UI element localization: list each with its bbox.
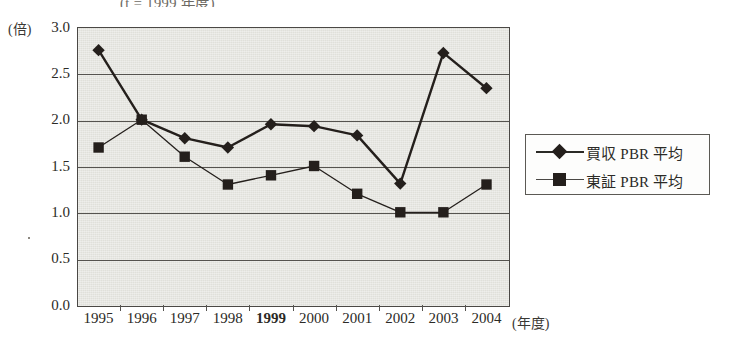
- data-point-square-2003: [438, 207, 448, 217]
- chart-legend: 買収 PBR 平均東証 PBR 平均: [525, 134, 710, 195]
- data-point-diamond-2000: [308, 120, 320, 132]
- scan-artifact-dot: [28, 237, 30, 239]
- x-axis-tick-label-1999: 1999: [248, 309, 294, 329]
- data-point-square-1997: [180, 152, 190, 162]
- legend-marker-square-icon: [553, 173, 566, 186]
- data-point-diamond-1995: [92, 44, 104, 56]
- data-point-square-1999: [266, 170, 276, 180]
- y-axis-tick-label: 1.0: [30, 205, 70, 220]
- series-line-1: [99, 50, 487, 183]
- x-axis-tick-label-1997: 1997: [162, 309, 208, 329]
- chart-title-clipped: (t = 1999 年度): [120, 0, 380, 7]
- legend-label: 買収 PBR 平均: [586, 142, 684, 163]
- y-axis-tick-label: 0.0: [30, 298, 70, 313]
- data-point-square-2001: [352, 189, 362, 199]
- legend-sample-square: [534, 170, 586, 190]
- data-point-square-2000: [309, 161, 319, 171]
- legend-item-1: 買収 PBR 平均: [526, 138, 711, 166]
- data-point-diamond-1997: [179, 132, 191, 144]
- x-axis-tick-label-2003: 2003: [420, 309, 466, 329]
- x-axis-tick-label-2004: 2004: [463, 309, 509, 329]
- data-point-diamond-1999: [265, 118, 277, 130]
- y-axis-tick-label: 0.5: [30, 251, 70, 266]
- x-axis-tick-label-1998: 1998: [205, 309, 251, 329]
- x-axis-tick-label-1996: 1996: [119, 309, 165, 329]
- data-point-square-2004: [481, 179, 491, 189]
- legend-label: 東証 PBR 平均: [586, 170, 684, 191]
- y-axis-tick-label: 2.0: [30, 112, 70, 127]
- y-axis-tick-label: 2.5: [30, 66, 70, 81]
- legend-item-2: 東証 PBR 平均: [526, 166, 711, 194]
- x-axis-unit-label: (年度): [512, 312, 549, 332]
- legend-marker-diamond-icon: [552, 144, 568, 160]
- data-point-square-2002: [395, 207, 405, 217]
- series-overlay: [77, 27, 508, 305]
- series-line-2: [99, 120, 487, 213]
- y-axis-tick-label: 1.5: [30, 159, 70, 174]
- y-axis-tick-label: 3.0: [30, 20, 70, 35]
- data-point-square-1998: [223, 179, 233, 189]
- data-point-square-1996: [137, 115, 147, 125]
- x-axis-tick-label-2001: 2001: [334, 309, 380, 329]
- data-point-square-1995: [93, 142, 103, 152]
- y-axis-unit-label: (倍): [8, 18, 31, 38]
- data-point-diamond-1998: [222, 141, 234, 153]
- x-axis-tick-label-2000: 2000: [291, 309, 337, 329]
- x-axis-tick-label-1995: 1995: [76, 309, 122, 329]
- x-axis-tick-label-2002: 2002: [377, 309, 423, 329]
- chart-figure: (t = 1999 年度) (倍) 3.02.52.01.51.00.50.0 …: [0, 0, 737, 354]
- legend-sample-diamond: [534, 142, 586, 162]
